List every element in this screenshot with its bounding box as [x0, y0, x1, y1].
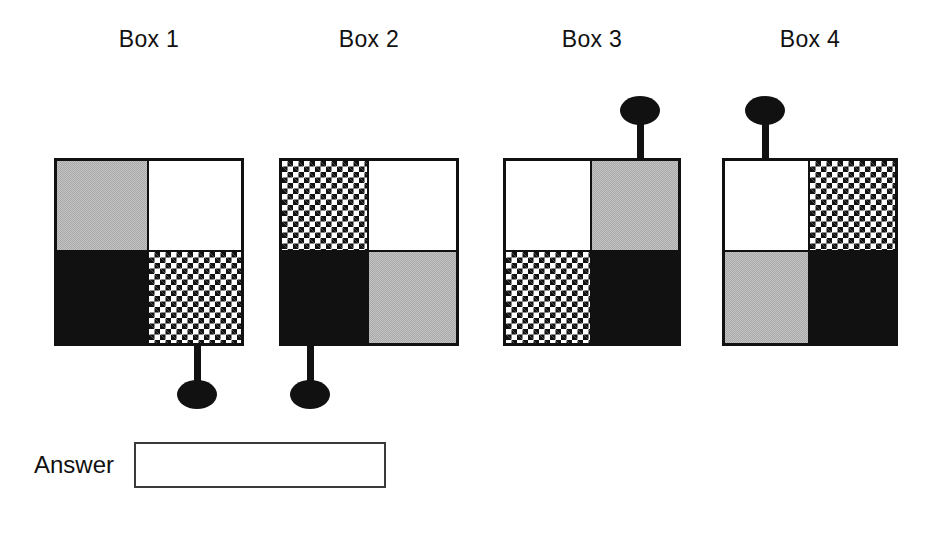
box-1-quadrant-bottom-left: [57, 252, 149, 343]
box-3-pin-stem: [637, 120, 644, 162]
answer-label: Answer: [34, 451, 114, 479]
box-figure-2[interactable]: [279, 158, 459, 346]
box-group-2: Box 2: [279, 26, 459, 398]
box-3-quadrant-bottom-right: [592, 252, 678, 343]
answer-input[interactable]: [134, 442, 386, 488]
box-1-pin: [172, 344, 222, 424]
box-label-4: Box 4: [722, 26, 898, 53]
box-3-quadrant-top-left: [506, 161, 592, 252]
box-figure-4[interactable]: [722, 158, 898, 346]
box-2-quadrant-top-right: [369, 161, 456, 252]
box-2-quadrant-top-left: [282, 161, 369, 252]
box-4-quadrant-bottom-left: [725, 252, 810, 343]
box-group-1: Box 1: [54, 26, 244, 398]
box-2-pin-head: [290, 380, 330, 409]
box-2-quadrant-bottom-right: [369, 252, 456, 343]
box-4-pin: [740, 82, 790, 162]
box-figure-3[interactable]: [503, 158, 681, 346]
box-label-1: Box 1: [54, 26, 244, 53]
box-4-quadrant-top-right: [810, 161, 895, 252]
box-1-quadrant-top-left: [57, 161, 149, 252]
answer-row: Answer: [34, 442, 386, 488]
box-group-3: Box 3: [503, 26, 681, 398]
box-3-pin: [615, 82, 665, 162]
box-3-quadrant-bottom-left: [506, 252, 592, 343]
box-4-pin-stem: [762, 120, 769, 162]
box-figure-1[interactable]: [54, 158, 244, 346]
box-2-pin-stem: [307, 344, 314, 384]
box-3-quadrant-top-right: [592, 161, 678, 252]
box-2-pin: [285, 344, 335, 424]
box-group-4: Box 4: [722, 26, 898, 398]
box-label-2: Box 2: [279, 26, 459, 53]
puzzle-canvas: Box 1 Box 2 Box 3: [0, 0, 940, 535]
box-1-pin-stem: [194, 344, 201, 384]
box-4-quadrant-top-left: [725, 161, 810, 252]
box-1-quadrant-bottom-right: [149, 252, 241, 343]
box-label-3: Box 3: [503, 26, 681, 53]
box-4-quadrant-bottom-right: [810, 252, 895, 343]
box-1-pin-head: [177, 380, 217, 409]
box-1-quadrant-top-right: [149, 161, 241, 252]
box-2-quadrant-bottom-left: [282, 252, 369, 343]
